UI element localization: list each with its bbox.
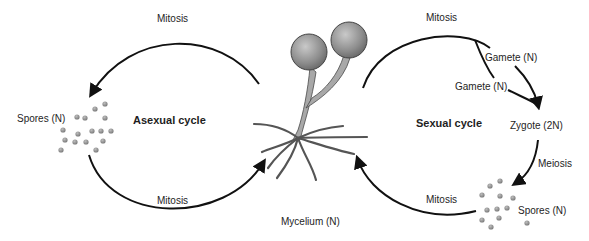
mycelium-label: Mycelium (N): [281, 216, 340, 228]
sexual-bottom-mitosis-label: Mitosis: [426, 194, 457, 206]
sexual-top-mitosis-label: Mitosis: [426, 12, 457, 24]
meiosis-label: Meiosis: [538, 158, 572, 170]
sporangium-left: [291, 34, 327, 70]
sexual-cycle-title: Sexual cycle: [416, 117, 482, 129]
asexual-cycle-title: Asexual cycle: [133, 114, 206, 126]
diagram-artwork: [0, 0, 589, 241]
meiosis-arrow: [516, 140, 538, 183]
fungal-life-cycle-diagram: Mitosis Spores (N) Asexual cycle Mitosis…: [0, 0, 589, 241]
asexual-bottom-mitosis-label: Mitosis: [157, 195, 188, 207]
sporangium-right: [331, 22, 367, 58]
asexual-top-arrow: [92, 44, 259, 93]
asexual-spores-label: Spores (N): [17, 113, 65, 125]
sexual-spores-label: Spores (N): [518, 205, 566, 217]
asexual-spores: [58, 101, 113, 152]
gamete-1-label: Gamete (N): [485, 52, 537, 64]
sexual-bottom-arrow: [358, 160, 476, 215]
sexual-spores: [479, 178, 529, 229]
sexual-top-arc: [363, 36, 538, 105]
zygote-label: Zygote (2N): [510, 120, 563, 132]
gamete-2-label: Gamete (N): [455, 81, 507, 93]
asexual-top-mitosis-label: Mitosis: [157, 13, 188, 25]
mycelium-illustration: [254, 22, 367, 180]
